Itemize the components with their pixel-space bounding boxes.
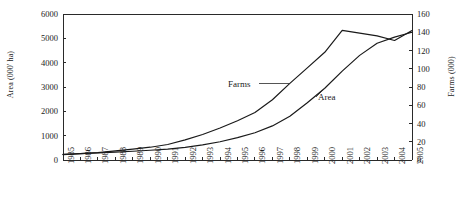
chart-container: Area (000' ha) Farms (000) 0100020003000… <box>0 0 463 212</box>
data-series-layer <box>63 30 412 154</box>
plot-area <box>0 0 463 212</box>
series-annotation-area: Area <box>318 93 336 102</box>
series-line-farms <box>63 30 412 154</box>
series-line-area <box>63 32 412 154</box>
series-annotation-farms: Farms <box>228 80 251 89</box>
annotation-leader-farms <box>259 83 290 84</box>
annotation-leader-lines <box>259 83 325 97</box>
